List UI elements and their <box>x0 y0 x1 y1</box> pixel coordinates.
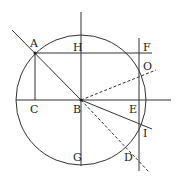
label-a: A <box>29 37 39 50</box>
label-b: B <box>73 103 81 116</box>
geometry-diagram: A H F O C B E I G D <box>0 0 178 190</box>
label-c: C <box>30 103 38 116</box>
label-o: O <box>143 60 152 73</box>
label-i: I <box>143 127 147 140</box>
label-g: G <box>73 151 82 164</box>
label-h: H <box>73 41 83 54</box>
point-b-dot <box>80 99 83 102</box>
line-bi <box>81 100 152 129</box>
label-d: D <box>124 151 133 164</box>
point-a-dot <box>34 52 37 55</box>
label-e: E <box>129 103 137 116</box>
label-f: F <box>143 41 151 54</box>
line-ab-diagonal <box>12 30 81 100</box>
